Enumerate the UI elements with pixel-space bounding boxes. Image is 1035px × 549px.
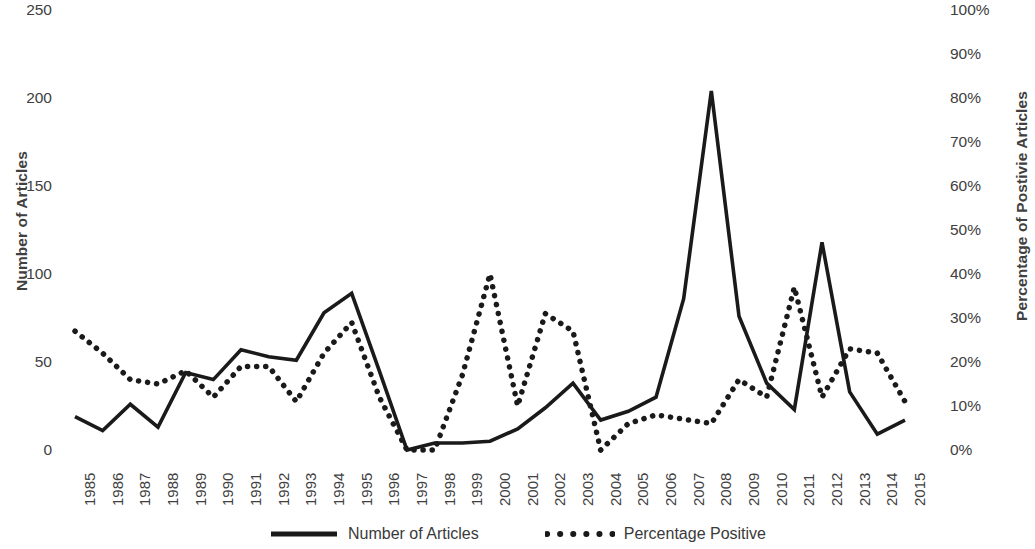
legend-key-solid <box>269 527 339 541</box>
series-line-number-of-articles <box>75 91 905 450</box>
plot-area <box>0 0 1035 549</box>
legend-label: Number of Articles <box>348 525 479 543</box>
legend-label: Percentage Positive <box>624 525 766 543</box>
legend-item[interactable]: Percentage Positive <box>545 525 766 543</box>
legend-key-dotted <box>545 527 615 541</box>
legend-item[interactable]: Number of Articles <box>269 525 479 543</box>
chart-legend: Number of ArticlesPercentage Positive <box>0 519 1035 549</box>
dual-axis-line-chart: Number of Articles Percentage of Postivi… <box>0 0 1035 549</box>
series-line-percentage-positive <box>75 274 905 450</box>
